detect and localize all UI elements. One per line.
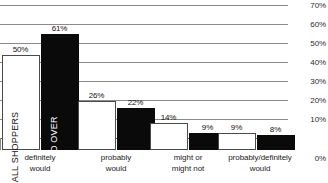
x-label-line-2: would	[0, 163, 80, 174]
y-tick-label: 50%	[288, 39, 326, 48]
y-tick-label: 60%	[288, 20, 326, 29]
bar-value-label: 26%	[89, 91, 105, 100]
bar-wrap-all-shoppers: 14%	[150, 113, 188, 150]
x-label-line-1: might or	[174, 153, 203, 162]
y-tick-label: 30%	[288, 77, 326, 86]
bar-all-shoppers[interactable]	[150, 123, 188, 150]
x-label-probably-would: probably would	[80, 152, 152, 174]
y-tick-label: 70%	[288, 1, 326, 10]
bar-group-probably-would: 26% 22%	[80, 5, 152, 150]
bar-group-probably-definitely-would: 9% 8%	[224, 5, 288, 150]
y-tick-label: 10%	[288, 115, 326, 124]
x-label-line-1: probably	[101, 153, 131, 162]
bar-chart: 50% ALL SHOPPERS 61% 55 AND OVER 26%	[0, 0, 328, 183]
bar-group-definitely-would: 50% ALL SHOPPERS 61% 55 AND OVER	[0, 5, 80, 150]
bar-wrap-55-and-over: 8%	[257, 125, 295, 150]
bar-55-and-over[interactable]	[257, 135, 295, 150]
x-label-definitely-would: definitely would	[0, 152, 80, 174]
x-label-probably-definitely-would: probably/definitely would	[220, 152, 300, 174]
x-label-line-2: might not	[152, 163, 224, 174]
bar-value-label: 61%	[52, 24, 68, 33]
x-axis-labels: definitely would probably would might or…	[0, 152, 288, 182]
x-label-line-2: would	[80, 163, 152, 174]
bar-wrap-all-shoppers: 50% ALL SHOPPERS	[2, 45, 40, 150]
bar-value-label: 9%	[202, 123, 213, 132]
x-label-line-2: would	[220, 163, 300, 174]
bar-value-label: 22%	[128, 98, 144, 107]
bar-value-label: 50%	[13, 45, 29, 54]
x-label-line-1: probably/definitely	[228, 153, 292, 162]
bar-all-shoppers[interactable]	[218, 133, 256, 150]
bar-55-and-over[interactable]: 55 AND OVER	[41, 34, 79, 150]
y-tick-label: 20%	[288, 96, 326, 105]
bar-value-label: 8%	[270, 125, 281, 134]
bar-all-shoppers[interactable]	[78, 101, 116, 150]
y-tick-label: 40%	[288, 58, 326, 67]
bar-value-label: 14%	[161, 113, 177, 122]
bar-wrap-all-shoppers: 26%	[78, 91, 116, 150]
bar-value-label: 9%	[231, 123, 242, 132]
plot-area: 50% ALL SHOPPERS 61% 55 AND OVER 26%	[0, 5, 288, 150]
x-label-line-1: definitely	[24, 153, 55, 162]
bar-wrap-all-shoppers: 9%	[218, 123, 256, 150]
bar-all-shoppers[interactable]: ALL SHOPPERS	[2, 55, 40, 150]
x-label-might-or-might-not: might or might not	[152, 152, 224, 174]
bar-wrap-55-and-over: 61% 55 AND OVER	[41, 24, 79, 150]
bar-group-might-or-might-not: 14% 9%	[152, 5, 224, 150]
